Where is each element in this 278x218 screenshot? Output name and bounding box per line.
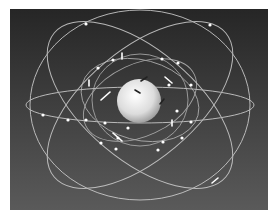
illustration-frame: [10, 9, 268, 210]
earth: [117, 79, 161, 123]
orbit-illustration: [10, 9, 268, 210]
